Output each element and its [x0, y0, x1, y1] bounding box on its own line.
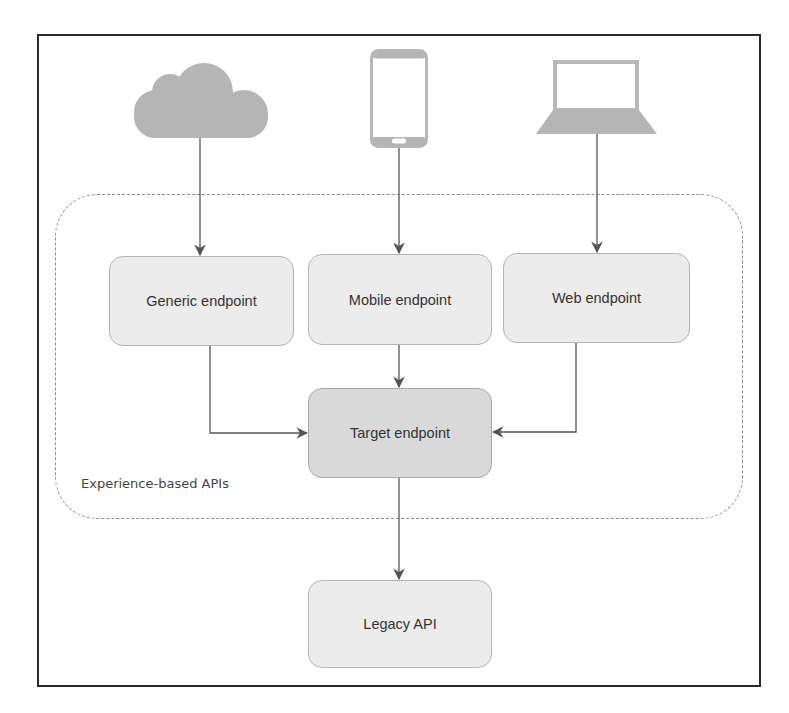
generic-endpoint-node: Generic endpoint: [109, 256, 294, 346]
legacy-api-node: Legacy API: [308, 580, 492, 668]
web-endpoint-label: Web endpoint: [552, 290, 641, 306]
legacy-api-label: Legacy API: [363, 616, 436, 632]
target-endpoint-label: Target endpoint: [350, 425, 450, 441]
web-endpoint-node: Web endpoint: [503, 253, 690, 343]
generic-endpoint-label: Generic endpoint: [146, 293, 256, 309]
mobile-endpoint-node: Mobile endpoint: [308, 254, 492, 345]
mobile-endpoint-label: Mobile endpoint: [349, 292, 451, 308]
target-endpoint-node: Target endpoint: [308, 388, 492, 478]
